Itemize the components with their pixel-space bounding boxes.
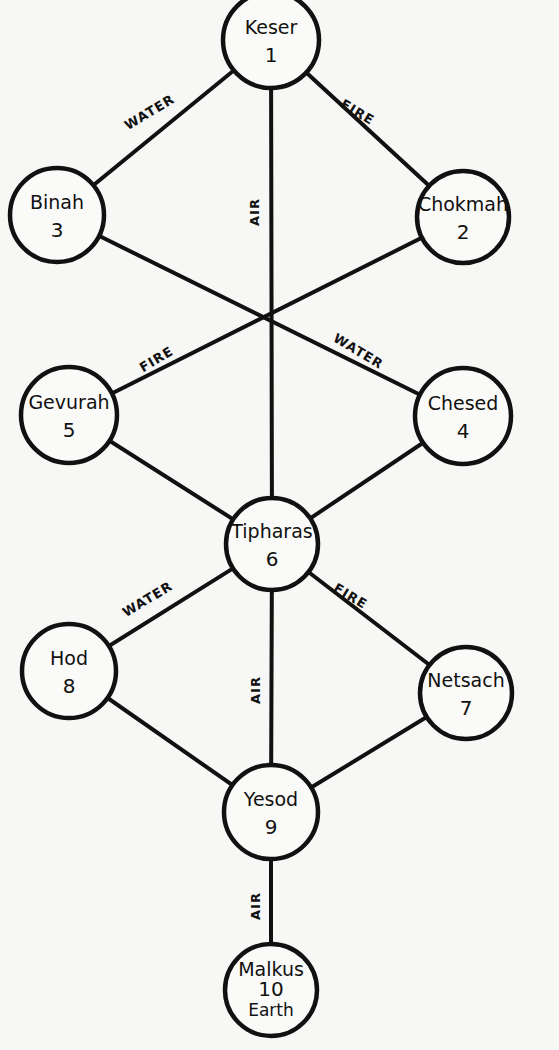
node-chesed: Chesed4 bbox=[415, 368, 511, 464]
node-keser: Keser1 bbox=[223, 0, 319, 88]
node-gevurah: Gevurah5 bbox=[21, 367, 117, 463]
node-hod: Hod8 bbox=[22, 624, 116, 718]
diagram-canvas: WATERFIREAIRFIREWATERWATERFIREAIRAIR Kes… bbox=[0, 0, 559, 1050]
node-number: 6 bbox=[266, 547, 279, 571]
node-circle bbox=[21, 367, 117, 463]
node-circle bbox=[224, 765, 318, 859]
path-binah-chesed bbox=[57, 215, 463, 416]
node-name: Chesed bbox=[428, 392, 499, 414]
node-element: Earth bbox=[248, 1000, 294, 1020]
node-circle bbox=[226, 498, 318, 590]
node-number: 7 bbox=[460, 696, 473, 720]
node-chokmah: Chokmah2 bbox=[417, 171, 509, 263]
node-number: 9 bbox=[265, 815, 278, 839]
node-circle bbox=[415, 368, 511, 464]
node-malkus: Malkus10Earth bbox=[225, 944, 317, 1036]
node-number: 4 bbox=[457, 419, 470, 443]
node-binah: Binah3 bbox=[10, 168, 104, 262]
node-name: Gevurah bbox=[28, 391, 109, 413]
node-name: Yesod bbox=[243, 788, 298, 810]
edge-label-air: AIR bbox=[248, 676, 263, 704]
node-tipharas: Tipharas6 bbox=[226, 498, 318, 590]
node-name: Tipharas bbox=[230, 520, 312, 542]
edge-label-fire: FIRE bbox=[338, 96, 377, 128]
node-netsach: Netsach7 bbox=[420, 647, 512, 739]
node-number: 10 bbox=[258, 977, 283, 1001]
node-name: Hod bbox=[50, 647, 88, 669]
node-circle bbox=[10, 168, 104, 262]
edge-label-fire: FIRE bbox=[331, 580, 370, 612]
node-circle bbox=[420, 647, 512, 739]
node-yesod: Yesod9 bbox=[224, 765, 318, 859]
node-circle bbox=[22, 624, 116, 718]
tree-of-life-diagram: WATERFIREAIRFIREWATERWATERFIREAIRAIR Kes… bbox=[0, 0, 559, 1050]
nodes-layer: Keser1Chokmah2Binah3Chesed4Gevurah5Tipha… bbox=[10, 0, 512, 1036]
path-keser-tipharas bbox=[271, 40, 272, 544]
node-number: 3 bbox=[51, 218, 64, 242]
node-name: Chokmah bbox=[418, 193, 508, 215]
node-circle bbox=[417, 171, 509, 263]
node-number: 1 bbox=[265, 43, 278, 67]
edge-label-air: AIR bbox=[248, 892, 263, 920]
edge-label-air: AIR bbox=[247, 198, 262, 226]
node-number: 5 bbox=[63, 418, 76, 442]
node-name: Keser bbox=[245, 16, 298, 38]
node-number: 8 bbox=[63, 674, 76, 698]
node-name: Netsach bbox=[427, 669, 504, 691]
edge-label-water: WATER bbox=[120, 578, 175, 619]
node-name: Binah bbox=[30, 191, 84, 213]
edge-label-water: WATER bbox=[122, 91, 177, 132]
node-number: 2 bbox=[457, 220, 470, 244]
